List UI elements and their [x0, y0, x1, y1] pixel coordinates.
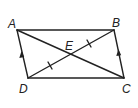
parallelogram-diagram: A B C D E [0, 0, 138, 108]
label-d: D [19, 82, 28, 96]
label-a: A [7, 17, 16, 31]
parallel-arrow-ad-icon [19, 51, 24, 58]
diagonal-bd [28, 30, 114, 78]
parallel-arrow-bc-icon [116, 49, 121, 56]
label-c: C [122, 82, 131, 96]
diagram-canvas: A B C D E [0, 0, 138, 108]
label-e: E [65, 39, 74, 53]
label-b: B [112, 16, 120, 30]
